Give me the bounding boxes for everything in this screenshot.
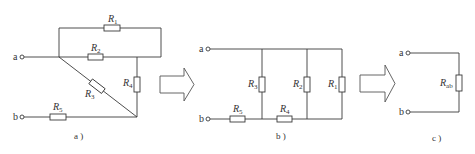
terminal-b-label: b [13, 111, 18, 122]
wire-a-top-right [103, 28, 161, 57]
terminal-a-label: a [13, 51, 18, 62]
label-r4: R4 [122, 77, 133, 90]
resistor-r4 [277, 116, 292, 122]
resistor-r1 [339, 77, 345, 92]
terminal-a-circle [206, 47, 210, 51]
resistor-r2 [88, 54, 103, 60]
wire-c-bottom [410, 91, 459, 112]
wire-a-diag-2 [103, 91, 137, 117]
wire-c-top [410, 53, 459, 75]
resistor-r3 [259, 77, 265, 92]
label-r4: R4 [279, 103, 290, 116]
caption-a: a ) [74, 131, 83, 141]
label-r3: R3 [84, 88, 95, 101]
label-r2: R2 [292, 78, 303, 91]
terminal-b-circle [406, 110, 410, 114]
resistor-r5 [50, 114, 66, 120]
terminal-b-circle [206, 117, 210, 121]
caption-b: b ) [276, 131, 286, 141]
terminal-b-label: b [399, 106, 404, 117]
right-arrow-icon [360, 65, 395, 102]
resistor-r4 [134, 77, 140, 92]
terminal-b-circle [20, 115, 24, 119]
label-r5: R5 [232, 103, 243, 116]
label-r1: R1 [327, 78, 338, 91]
terminal-a-label: a [199, 43, 204, 54]
caption-c: c ) [432, 133, 441, 143]
circuit-equivalence-figure: a b R1 R2 R3 R4 R5 a ) a b R3 R2 R1 [0, 0, 475, 154]
circuit-b: a b R3 R2 R1 R5 R4 b ) [199, 43, 345, 141]
label-r2: R2 [90, 42, 101, 55]
resistor-r5 [230, 116, 245, 122]
right-arrow-icon [160, 68, 194, 101]
circuit-c: a b Rab c ) [399, 47, 462, 143]
label-rab: Rab [439, 77, 453, 90]
label-r5: R5 [52, 101, 63, 114]
resistor-r2 [304, 77, 310, 92]
terminal-a-label: a [399, 47, 404, 58]
resistor-r3 [89, 79, 105, 94]
resistor-rab [456, 75, 462, 91]
terminal-a-circle [20, 55, 24, 59]
terminal-a-circle [406, 51, 410, 55]
circuit-a: a b R1 R2 R3 R4 R5 a ) [13, 13, 161, 141]
wire-a-diag-1 [59, 57, 91, 82]
terminal-b-label: b [199, 113, 204, 124]
label-r1: R1 [107, 13, 118, 26]
label-r3: R3 [247, 78, 258, 91]
